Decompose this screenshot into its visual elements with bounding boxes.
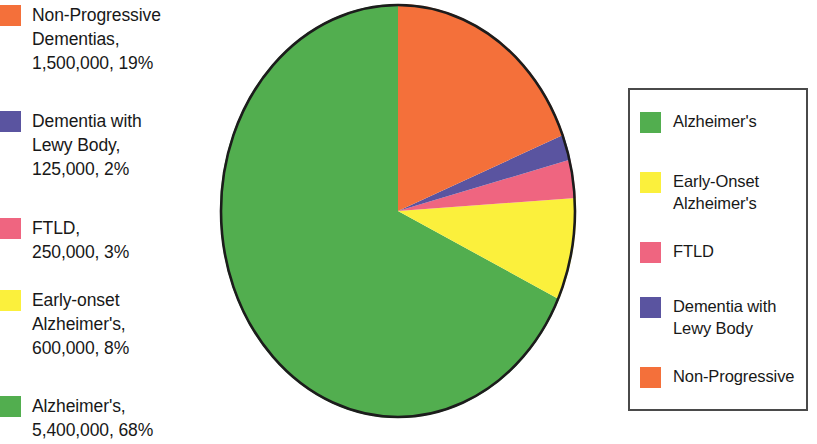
chart-canvas: Non-Progressive Dementias, 1,500,000, 19… [0, 0, 817, 444]
swatch-alzheimers-icon [0, 396, 21, 417]
legend-swatch-non-progressive-icon [640, 367, 661, 388]
legend-swatch-ftld-icon [640, 242, 661, 263]
data-label-1: Dementia with Lewy Body, 125,000, 2% [0, 109, 142, 181]
data-label-text: Dementia with Lewy Body, 125,000, 2% [32, 109, 142, 181]
legend-swatch-lewy-body-icon [640, 297, 661, 318]
data-label-0: Non-Progressive Dementias, 1,500,000, 19… [0, 3, 161, 75]
swatch-early-onset-icon [0, 290, 21, 311]
legend-item-label: FTLD [673, 240, 714, 262]
swatch-ftld-icon [0, 218, 21, 239]
data-label-2: FTLD, 250,000, 3% [0, 216, 129, 264]
data-label-text: Alzheimer's, 5,400,000, 68% [32, 394, 153, 442]
legend-item-4: Non-Progressive [640, 365, 794, 388]
swatch-non-progressive-icon [0, 5, 21, 26]
legend-item-2: FTLD [640, 240, 714, 263]
data-label-text: FTLD, 250,000, 3% [32, 216, 129, 264]
data-label-list: Non-Progressive Dementias, 1,500,000, 19… [0, 0, 214, 444]
pie-svg [218, 3, 578, 421]
swatch-lewy-body-icon [0, 111, 21, 132]
data-label-4: Alzheimer's, 5,400,000, 68% [0, 394, 153, 442]
legend-swatch-alzheimers-icon [640, 112, 661, 133]
legend-item-label: Early-Onset Alzheimer's [673, 170, 759, 214]
data-label-text: Early-onset Alzheimer's, 600,000, 8% [32, 288, 129, 360]
legend-item-label: Alzheimer's [673, 110, 757, 132]
legend-item-0: Alzheimer's [640, 110, 757, 133]
legend-box: Alzheimer'sEarly-Onset Alzheimer'sFTLDDe… [628, 88, 808, 411]
pie-chart [218, 3, 578, 421]
data-label-text: Non-Progressive Dementias, 1,500,000, 19… [32, 3, 161, 75]
data-label-3: Early-onset Alzheimer's, 600,000, 8% [0, 288, 129, 360]
legend-item-label: Non-Progressive [673, 365, 794, 387]
legend-item-1: Early-Onset Alzheimer's [640, 170, 759, 214]
legend-item-3: Dementia with Lewy Body [640, 295, 776, 339]
legend-swatch-early-onset-icon [640, 172, 661, 193]
legend-item-label: Dementia with Lewy Body [673, 295, 776, 339]
